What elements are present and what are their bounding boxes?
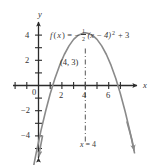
x-tick-label-4: 4 — [82, 91, 86, 100]
equation-variable: x — [57, 30, 61, 40]
y-tick-label-neg4: −4 — [21, 131, 30, 140]
fraction-denominator: 2 — [81, 35, 86, 42]
equation-constant-term: + 3 — [118, 30, 129, 40]
y-tick-label-2: 2 — [25, 56, 29, 65]
vertex-point-label: (4, 3) — [60, 58, 78, 67]
x-tick-label-0: 0 — [32, 88, 36, 97]
symmetry-label-value: = 4 — [84, 140, 97, 149]
equation-minus-sign: − — [75, 30, 80, 40]
parabola-right-arrow — [127, 122, 134, 150]
equation-equals-sign: = — [67, 30, 72, 40]
fraction-numerator: 1 — [81, 28, 86, 36]
x-tick-label-2: 2 — [59, 91, 63, 100]
y-axis-name-label: y — [38, 10, 42, 19]
y-tick-label-4: 4 — [25, 31, 29, 40]
axis-of-symmetry-label: x = 4 — [80, 141, 96, 149]
equation-binomial-group: (x − 4) — [87, 30, 111, 40]
equation-exponent: 2 — [112, 30, 115, 36]
x-tick-label-6: 6 — [106, 91, 110, 100]
equation-close-paren: ) — [62, 30, 65, 40]
function-equation-label: f(x) = − 1 2 (x − 4)2 + 3 — [50, 28, 129, 42]
x-axis-name-label: x — [143, 81, 147, 90]
equation-fraction-one-half: 1 2 — [81, 28, 86, 42]
parabola-graph-figure: f(x) = − 1 2 (x − 4)2 + 3 (4, 3) x = 4 y… — [0, 0, 161, 165]
equation-open-paren: ( — [53, 30, 56, 40]
y-tick-label-neg2: −2 — [21, 106, 30, 115]
equation-function-name: f — [50, 30, 52, 40]
